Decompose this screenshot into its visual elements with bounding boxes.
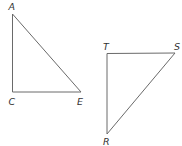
vertex-label-c: C <box>9 96 16 107</box>
side-rs <box>107 53 175 134</box>
vertex-label-s: S <box>174 41 180 52</box>
vertex-label-t: T <box>103 41 110 52</box>
triangle-ace: A C E <box>8 1 84 107</box>
triangle-tsr: T S R <box>103 41 180 146</box>
side-ts <box>107 53 175 54</box>
vertex-label-r: R <box>103 136 110 146</box>
vertex-label-e: E <box>77 96 83 107</box>
vertex-label-a: A <box>8 1 16 12</box>
side-ae <box>13 14 82 92</box>
triangles-diagram: A C E T S R <box>0 0 182 146</box>
